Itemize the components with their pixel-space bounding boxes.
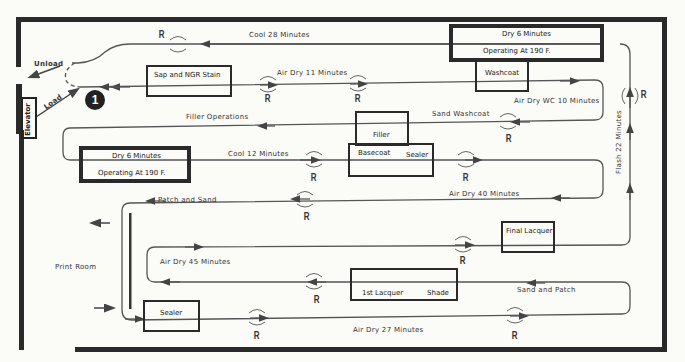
rotation-marker: R — [460, 255, 466, 266]
segment-air-dry-45: Air Dry 45 Minutes — [160, 258, 231, 266]
elevator-label: Elevator — [24, 103, 32, 136]
washcoat-label: Washcoat — [485, 69, 519, 77]
oven-top-label-1: Dry 6 Minutes — [502, 30, 551, 38]
rotation-marker: R — [314, 294, 320, 305]
rotation-marker: R — [304, 211, 310, 222]
rotation-marker: R — [355, 93, 361, 104]
building-walls — [16, 17, 667, 352]
sealer-top-label: Sealer — [406, 151, 428, 159]
segment-patch-and-sand: Patch and Sand — [158, 196, 217, 204]
rotation-marker: R — [265, 93, 271, 104]
station-final-lacquer — [501, 221, 555, 253]
oven-top-line — [453, 43, 600, 44]
segment-filler-operations: Filler Operations — [186, 113, 248, 121]
segment-air-dry-wc-10: Air Dry WC 10 Minutes — [514, 97, 600, 105]
sap-stain-label: Sap and NGR Stain — [154, 71, 220, 79]
rotation-marker: R — [512, 330, 518, 341]
rotation-marker: R — [641, 89, 647, 100]
filler-label: Filler — [373, 131, 390, 139]
segment-air-dry-11: Air Dry 11 Minutes — [277, 69, 348, 77]
segment-flash-22: Flash 22 Minutes — [615, 110, 623, 174]
segment-cool-28: Cool 28 Minutes — [249, 31, 310, 39]
basecoat-label: Basecoat — [358, 149, 390, 157]
station-sap-stain — [146, 65, 232, 97]
rotation-marker: R — [254, 330, 260, 341]
rotation-marker: R — [506, 133, 512, 144]
segment-air-dry-40: Air Dry 40 Minutes — [449, 190, 520, 198]
oven-top-label-2: Operating At 190 F. — [483, 47, 551, 55]
sealer-bottom-label: Sealer — [160, 309, 182, 317]
shade-label: Shade — [427, 289, 449, 297]
station-filler — [355, 111, 409, 146]
rotation-marker: R — [463, 172, 469, 183]
first-lacquer-label: 1st Lacquer — [362, 289, 403, 297]
segment-air-dry-27: Air Dry 27 Minutes — [353, 326, 424, 334]
segment-sand-washcoat: Sand Washcoat — [432, 110, 490, 118]
segment-sand-and-patch: Sand and Patch — [517, 286, 576, 294]
rotation-marker: R — [311, 172, 317, 183]
oven-left-label-2: Operating At 190 F. — [98, 169, 166, 177]
station-number-badge: 1 — [85, 90, 105, 110]
final-lacquer-label: Final Lacquer — [506, 227, 552, 235]
print-room-label: Print Room — [55, 263, 96, 271]
segment-cool-12: Cool 12 Minutes — [228, 150, 289, 158]
rotation-marker: R — [159, 29, 165, 40]
oven-left-label-1: Dry 6 Minutes — [112, 152, 161, 160]
unload-label: Unload — [34, 60, 63, 68]
